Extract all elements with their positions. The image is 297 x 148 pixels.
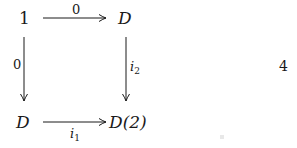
top-arrow-label: 0 (72, 3, 80, 16)
arrow-layer (0, 0, 297, 148)
right-arrow-label-sub: 2 (134, 66, 140, 76)
bottom-arrow-label: i1 (70, 127, 80, 143)
left-arrow-label: 0 (13, 58, 21, 71)
node-bottom-right: D(2) (109, 114, 147, 131)
node-top-right: D (118, 10, 132, 27)
node-top-left: 1 (19, 10, 30, 27)
bottom-arrow-label-sub: 1 (74, 133, 80, 143)
scan-artifact (220, 135, 224, 139)
node-bottom-right-text: D(2) (109, 112, 147, 132)
right-arrow-label: i2 (130, 60, 140, 76)
node-bottom-left: D (16, 114, 30, 131)
equation-number: 4 (279, 59, 288, 73)
